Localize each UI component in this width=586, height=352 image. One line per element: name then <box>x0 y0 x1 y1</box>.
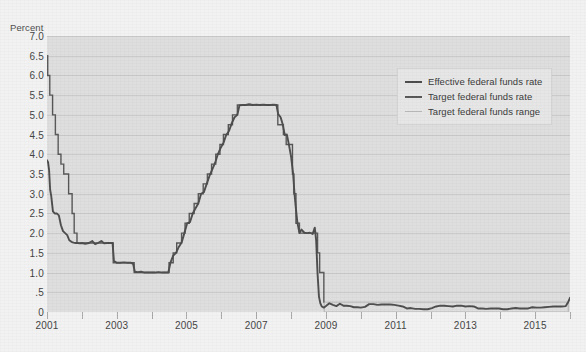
y-tick-label: 4.5 <box>0 129 44 140</box>
x-tick-mark <box>361 312 362 319</box>
x-axis-tick-marks <box>47 312 570 319</box>
y-tick-label: 4.0 <box>0 149 44 160</box>
y-tick-label: .5 <box>0 287 44 298</box>
x-tick-mark <box>221 312 222 319</box>
legend-label: Target federal funds range <box>428 106 540 117</box>
x-tick-label: 2015 <box>524 320 547 331</box>
x-tick-mark <box>396 312 397 319</box>
y-tick-label: 3.0 <box>0 188 44 199</box>
y-tick-label: 1.0 <box>0 267 44 278</box>
legend-item: Target federal funds rate <box>405 89 542 104</box>
x-tick-label: 2013 <box>454 320 477 331</box>
x-tick-mark <box>186 312 187 319</box>
effective-rate-line <box>47 104 570 309</box>
x-tick-mark <box>535 312 536 319</box>
y-tick-label: 6.0 <box>0 70 44 81</box>
legend-label: Effective federal funds rate <box>428 76 542 87</box>
y-tick-label: 1.5 <box>0 247 44 258</box>
y-tick-label: 2.5 <box>0 208 44 219</box>
x-tick-mark <box>82 312 83 319</box>
federal-funds-rate-chart: Percent 0.51.01.52.02.53.03.54.04.55.05.… <box>0 0 586 352</box>
y-axis-tick-labels: 0.51.01.52.02.53.03.54.04.55.05.56.06.57… <box>0 0 44 352</box>
x-tick-mark <box>152 312 153 319</box>
x-tick-mark <box>256 312 257 319</box>
x-tick-mark <box>291 312 292 319</box>
x-tick-label: 2011 <box>385 320 407 331</box>
x-tick-mark <box>47 312 48 319</box>
legend-color-swatch <box>405 111 422 112</box>
y-tick-label: 2.0 <box>0 228 44 239</box>
x-tick-mark <box>431 312 432 319</box>
y-tick-label: 3.5 <box>0 169 44 180</box>
x-tick-mark <box>465 312 466 319</box>
y-tick-label: 5.0 <box>0 109 44 120</box>
y-tick-label: 5.5 <box>0 90 44 101</box>
x-tick-mark <box>570 312 571 319</box>
y-tick-label: 6.5 <box>0 50 44 61</box>
x-tick-label: 2001 <box>35 320 58 331</box>
x-tick-label: 2005 <box>175 320 198 331</box>
y-tick-label: 0 <box>0 307 44 318</box>
chart-legend: Effective federal funds rateTarget feder… <box>397 68 552 125</box>
x-tick-mark <box>117 312 118 319</box>
x-tick-label: 2003 <box>105 320 128 331</box>
y-tick-label: 7.0 <box>0 31 44 42</box>
legend-color-swatch <box>405 81 422 83</box>
legend-item: Target federal funds range <box>405 104 542 119</box>
legend-color-swatch <box>405 96 422 98</box>
target-rate-line <box>47 56 324 302</box>
x-tick-mark <box>326 312 327 319</box>
x-axis-tick-labels: 20012003200520072009201120132015 <box>0 320 586 338</box>
legend-label: Target federal funds rate <box>428 91 532 102</box>
legend-item: Effective federal funds rate <box>405 74 542 89</box>
x-tick-label: 2009 <box>314 320 337 331</box>
x-tick-mark <box>500 312 501 319</box>
x-tick-label: 2007 <box>245 320 268 331</box>
